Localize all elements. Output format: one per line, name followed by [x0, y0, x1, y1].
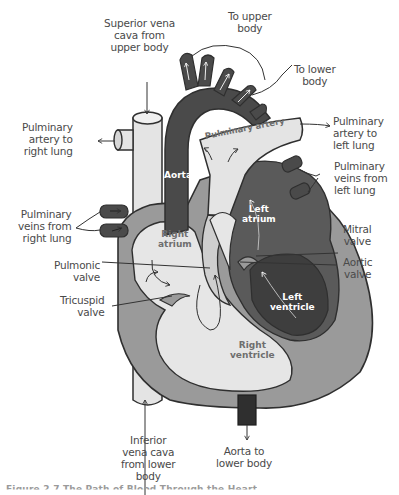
label-tricuspid-valve: Tricuspid valve	[60, 294, 104, 318]
heart-diagram: Superior vena cava from upper body To up…	[0, 0, 399, 495]
inner-label-right-atrium: Right atrium	[158, 229, 192, 249]
label-line: upper body	[104, 41, 175, 53]
label-line: Right	[158, 229, 192, 239]
label-line: from lower	[121, 458, 175, 470]
label-line: body	[228, 22, 272, 34]
label-line: To lower	[294, 63, 336, 75]
label-line: ventricle	[230, 350, 275, 360]
label-pulmonary-artery-right-lung: Pulminary artery to right lung	[22, 121, 73, 157]
label-line: cava from	[104, 29, 175, 41]
label-line: Aorta to	[216, 445, 272, 457]
label-line: lower body	[216, 457, 272, 469]
label-line: valve	[343, 235, 372, 247]
label-line: veins from	[18, 220, 72, 232]
label-line: valve	[54, 271, 100, 283]
label-line: Aortic	[343, 256, 372, 268]
label-line: Pulminary	[333, 115, 384, 127]
label-line: artery to	[333, 127, 384, 139]
label-line: Superior vena	[104, 17, 175, 29]
label-line: Pulminary	[18, 208, 72, 220]
label-to-upper-body: To upper body	[228, 10, 272, 34]
inner-label-aorta: Aorta	[164, 170, 192, 180]
label-pulmonary-veins-left-lung: Pulminary veins from left lung	[334, 160, 388, 196]
label-aortic-valve: Aortic valve	[343, 256, 372, 280]
label-line: Pulminary	[22, 121, 73, 133]
label-mitral-valve: Mitral valve	[343, 223, 372, 247]
label-line: Left	[270, 292, 315, 302]
label-to-lower-body: To lower body	[294, 63, 336, 87]
label-line: Inferior	[121, 434, 175, 446]
label-superior-vena-cava: Superior vena cava from upper body	[104, 17, 175, 53]
label-line: atrium	[158, 239, 192, 249]
inner-label-right-ventricle: Right ventricle	[230, 340, 275, 360]
label-line: body	[121, 470, 175, 482]
label-line: atrium	[242, 214, 276, 224]
label-inferior-vena-cava: Inferior vena cava from lower body	[121, 434, 175, 482]
label-line: body	[294, 75, 336, 87]
label-pulmonary-artery-left-lung: Pulminary artery to left lung	[333, 115, 384, 151]
label-line: veins from	[334, 172, 388, 184]
label-line: artery to	[22, 133, 73, 145]
label-line: valve	[60, 306, 104, 318]
label-line: right lung	[18, 232, 72, 244]
label-pulmonary-veins-right-lung: Pulminary veins from right lung	[18, 208, 72, 244]
label-aorta-to-lower-body: Aorta to lower body	[216, 445, 272, 469]
label-line: valve	[343, 268, 372, 280]
label-line: Tricuspid	[60, 294, 104, 306]
label-pulmonic-valve: Pulmonic valve	[54, 259, 100, 283]
label-line: left lung	[334, 184, 388, 196]
label-line: To upper	[228, 10, 272, 22]
inner-label-left-ventricle: Left ventricle	[270, 292, 315, 312]
label-line: left lung	[333, 139, 384, 151]
label-line: ventricle	[270, 302, 315, 312]
label-line: Pulminary	[334, 160, 388, 172]
label-line: vena cava	[121, 446, 175, 458]
label-line: Right	[230, 340, 275, 350]
inner-label-left-atrium: Left atrium	[242, 204, 276, 224]
label-line: Left	[242, 204, 276, 214]
heart-illustration	[0, 0, 399, 495]
label-line: right lung	[22, 145, 73, 157]
label-line: Pulmonic	[54, 259, 100, 271]
label-line: Mitral	[343, 223, 372, 235]
